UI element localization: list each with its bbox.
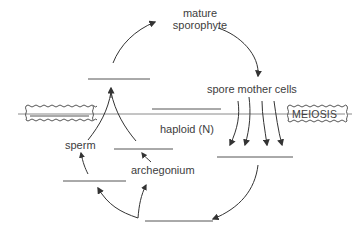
label-sporophyte: sporophyte [160,19,240,31]
gametophyte-arrows [98,185,146,218]
arrow-to-center-lower-blank [142,153,151,162]
label-mature: mature [167,7,233,19]
meiosis-arrows [230,97,282,145]
label-haploid: haploid (N) [160,123,214,135]
arrow-to-sperm [81,153,88,174]
arrow-to-bottom-blank [213,165,258,219]
label-archegonium: archegonium [131,164,195,176]
label-spore-mother-cells: spore mother cells [207,83,297,95]
label-meiosis: MEIOSIS [292,108,337,120]
fertilization-box [26,105,98,121]
label-sperm: sperm [65,139,96,151]
life-cycle-diagram: mature sporophyte spore mother cells MEI… [0,0,363,233]
arrow-to-spore-mother-cells [218,28,258,76]
arrow-to-sporophyte [113,22,155,63]
